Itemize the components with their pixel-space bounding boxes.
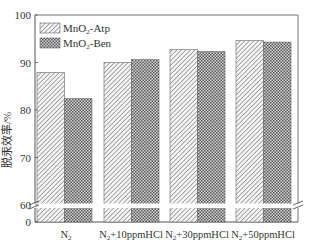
- x-category-label: N2+10ppmHCl: [99, 229, 163, 242]
- bar-ben: [264, 42, 292, 222]
- legend-label-atp: MnO2-Atp: [63, 22, 110, 36]
- x-axis-labels: N2N2+10ppmHClN2+30ppmHClN2+50ppmHCl: [60, 229, 294, 242]
- bar-ben: [132, 60, 160, 222]
- legend-swatch-ben: [40, 38, 60, 48]
- bar-atp: [170, 50, 198, 222]
- x-category-label: N2+30ppmHCl: [165, 229, 229, 242]
- y-tick-label: 80: [20, 104, 32, 116]
- y-tick-label: 90: [20, 57, 32, 69]
- y-axis-label: 脱汞效率/%: [0, 112, 13, 168]
- bar-ben: [65, 99, 93, 222]
- legend-label-ben: MnO2-Ben: [63, 37, 112, 51]
- x-category-label: N2+50ppmHCl: [231, 229, 295, 242]
- y-tick-label: 60: [20, 199, 32, 211]
- y-tick-label: 100: [15, 9, 32, 21]
- bar-atp: [37, 72, 65, 222]
- bar-chart: 060708090100 N2N2+10ppmHClN2+30ppmHClN2+…: [0, 0, 309, 246]
- y-tick-label: 70: [20, 152, 32, 164]
- legend-swatch-atp: [40, 23, 60, 33]
- bar-ben: [198, 52, 226, 222]
- y-tick-label: 0: [26, 216, 32, 228]
- legend: MnO2-Atp MnO2-Ben: [40, 22, 112, 51]
- bars-group: [37, 41, 291, 222]
- y-axis-ticks: 060708090100: [15, 9, 39, 228]
- bar-atp: [236, 41, 264, 222]
- x-category-label: N2: [60, 229, 72, 242]
- bar-atp: [104, 63, 132, 223]
